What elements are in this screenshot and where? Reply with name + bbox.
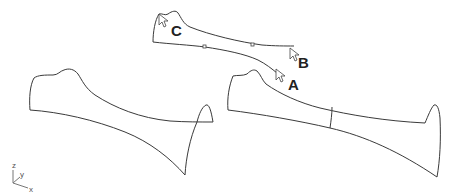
x-axis-line: [13, 183, 28, 188]
diagram-canvas: C B A z y x: [0, 0, 452, 194]
left-right-side: [185, 122, 197, 175]
y-axis-label: y: [20, 170, 24, 179]
right-end-hump: [425, 105, 440, 177]
axis-triad: z y x: [12, 161, 33, 194]
cursor-icon-c: [159, 14, 168, 27]
z-axis-label: z: [12, 161, 16, 170]
left-right-hump: [197, 105, 213, 122]
right-surface-outline: [228, 70, 441, 177]
right-upper-edge: [228, 70, 425, 123]
y-axis-line: [13, 177, 20, 183]
left-surface-outline: [30, 69, 213, 175]
top-lower-curve: [153, 42, 277, 73]
right-lower-edge: [228, 110, 437, 177]
label-b: B: [298, 54, 309, 71]
label-a: A: [288, 76, 299, 93]
control-point[interactable]: [251, 43, 254, 46]
control-point[interactable]: [203, 45, 206, 48]
label-c: C: [171, 22, 182, 39]
left-upper-edge: [30, 69, 213, 122]
cursor-icon-a: [276, 69, 285, 82]
x-axis-label: x: [29, 185, 33, 194]
